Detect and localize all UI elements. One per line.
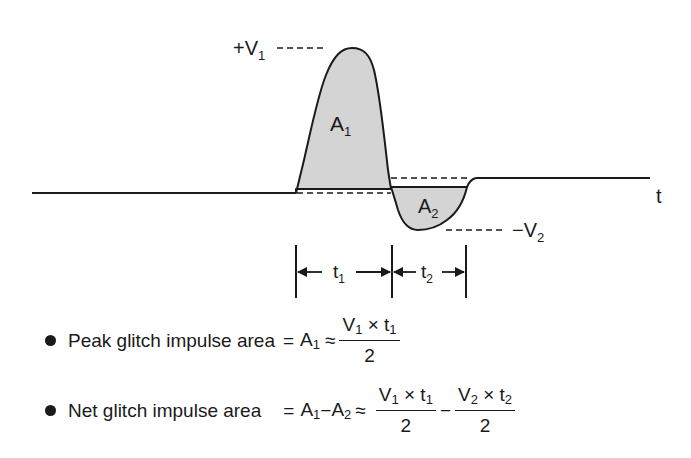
fraction-v1t1-over-2: V1 × t1 2 bbox=[376, 384, 436, 437]
label-plus-v1: +V1 bbox=[233, 37, 265, 63]
equals-sign: = bbox=[283, 330, 294, 352]
approx-sign: ≈ bbox=[325, 330, 335, 352]
label-t2: t2 bbox=[421, 261, 433, 286]
fraction-v1t1-over-2: V1 × t1 2 bbox=[339, 314, 399, 367]
bullet-icon bbox=[45, 335, 56, 346]
equals-sign: = bbox=[283, 400, 294, 422]
formula-net-glitch-impulse: Net glitch impulse area = A1 − A2 ≈ V1 ×… bbox=[45, 384, 519, 437]
label-minus-v2: −V2 bbox=[512, 219, 544, 245]
minus-sign: − bbox=[320, 400, 331, 422]
lhs-a1: A1 bbox=[300, 399, 320, 422]
minus-between-fractions: − bbox=[440, 400, 451, 422]
formula-label: Net glitch impulse area bbox=[68, 400, 261, 422]
bullet-icon bbox=[45, 405, 56, 416]
label-time-axis: t bbox=[656, 185, 662, 207]
lhs-a1: A1 bbox=[300, 329, 320, 352]
formula-label: Peak glitch impulse area bbox=[68, 330, 275, 352]
formula-peak-glitch-impulse: Peak glitch impulse area = A1 ≈ V1 × t1 … bbox=[45, 314, 404, 367]
lhs-a2: A2 bbox=[331, 399, 351, 422]
approx-sign: ≈ bbox=[355, 400, 365, 422]
fraction-v2t2-over-2: V2 × t2 2 bbox=[455, 384, 515, 437]
recovery-edge bbox=[467, 178, 476, 187]
label-t1: t1 bbox=[333, 261, 345, 286]
